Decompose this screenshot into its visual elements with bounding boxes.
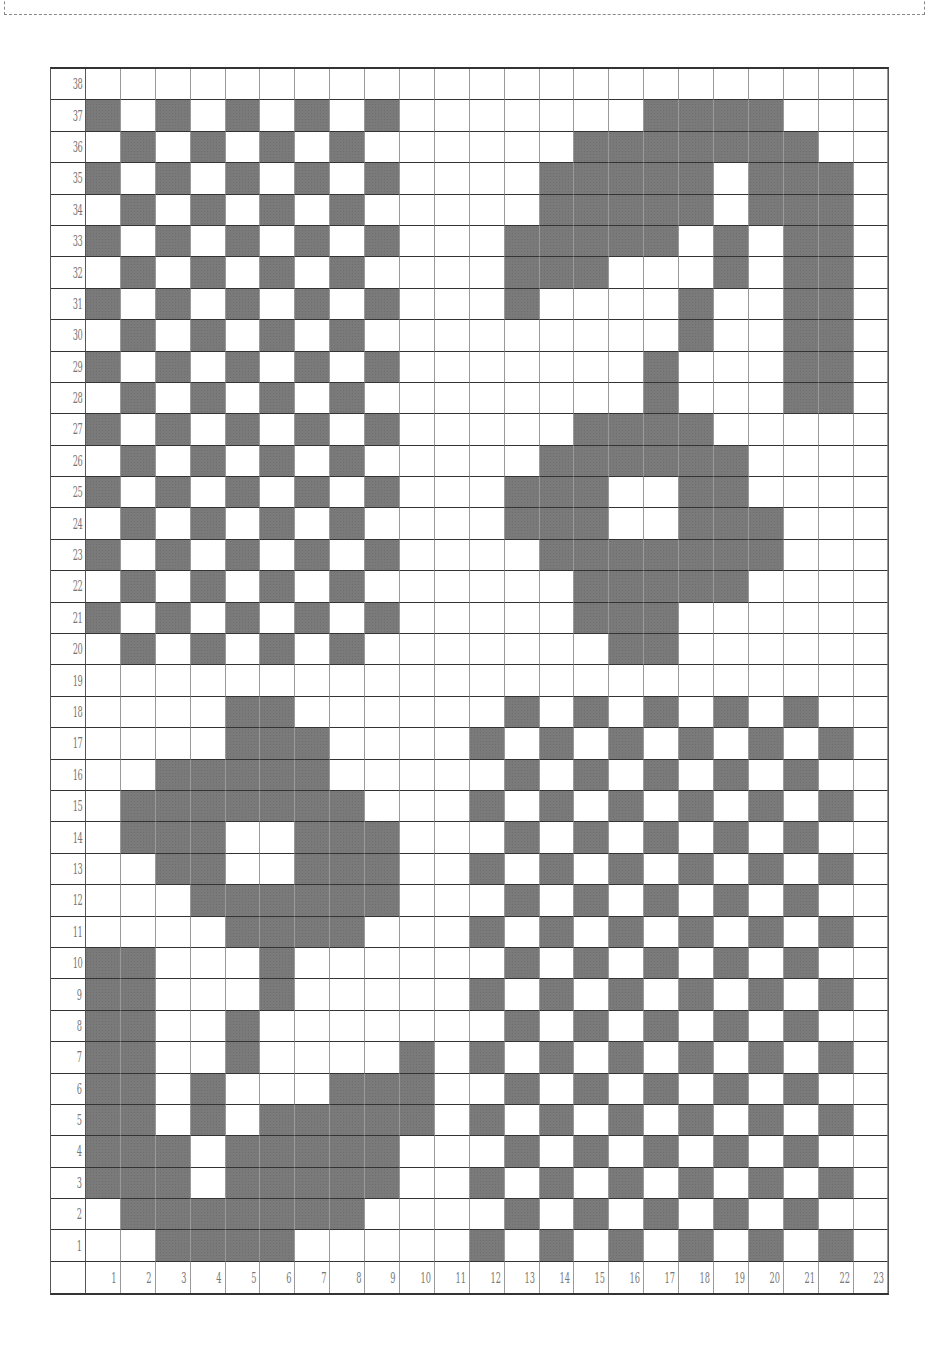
column-label-text: 2 [147, 1269, 152, 1287]
filled-cell [191, 1074, 226, 1105]
empty-cell [435, 760, 470, 791]
filled-cell [644, 226, 679, 257]
filled-cell [470, 1042, 505, 1073]
empty-cell [644, 791, 679, 822]
filled-cell [470, 917, 505, 948]
empty-cell [156, 1074, 191, 1105]
filled-cell [86, 603, 121, 634]
empty-cell [121, 728, 156, 759]
empty-cell [191, 665, 226, 696]
filled-cell [540, 728, 575, 759]
filled-cell [86, 163, 121, 194]
filled-cell [295, 163, 330, 194]
empty-cell [295, 383, 330, 414]
filled-cell [644, 571, 679, 602]
empty-cell [644, 1168, 679, 1199]
filled-cell [505, 257, 540, 288]
filled-cell [226, 603, 261, 634]
column-label: 6 [260, 1262, 295, 1293]
filled-cell [121, 948, 156, 979]
filled-cell [86, 1011, 121, 1042]
empty-cell [540, 100, 575, 131]
empty-cell [819, 132, 854, 163]
empty-cell [854, 477, 889, 508]
empty-cell [156, 1105, 191, 1136]
filled-cell [749, 508, 784, 539]
empty-cell [435, 791, 470, 822]
empty-cell [819, 697, 854, 728]
empty-cell [435, 540, 470, 571]
empty-cell [470, 226, 505, 257]
filled-cell [191, 1199, 226, 1230]
column-label: 11 [435, 1262, 470, 1293]
row-label-text: 24 [73, 515, 82, 533]
filled-cell [365, 540, 400, 571]
empty-cell [609, 383, 644, 414]
empty-cell [400, 383, 435, 414]
empty-cell [749, 603, 784, 634]
row-label-text: 20 [73, 640, 82, 658]
filled-cell [295, 917, 330, 948]
empty-cell [854, 822, 889, 853]
filled-cell [260, 320, 295, 351]
filled-cell [574, 446, 609, 477]
empty-cell [295, 979, 330, 1010]
filled-cell [156, 1199, 191, 1230]
empty-cell [819, 885, 854, 916]
filled-cell [784, 257, 819, 288]
filled-cell [226, 728, 261, 759]
filled-cell [121, 1168, 156, 1199]
empty-cell [400, 100, 435, 131]
filled-cell [819, 917, 854, 948]
empty-cell [819, 446, 854, 477]
column-label-text: 7 [321, 1269, 326, 1287]
empty-cell [574, 100, 609, 131]
empty-cell [854, 1199, 889, 1230]
filled-cell [295, 603, 330, 634]
empty-cell [854, 697, 889, 728]
empty-cell [819, 1199, 854, 1230]
row-label: 33 [51, 226, 86, 257]
empty-cell [435, 477, 470, 508]
empty-cell [505, 854, 540, 885]
filled-cell [156, 1230, 191, 1261]
empty-cell [86, 760, 121, 791]
empty-cell [679, 885, 714, 916]
filled-cell [679, 1168, 714, 1199]
row-label-text: 35 [73, 169, 82, 187]
filled-cell [609, 226, 644, 257]
filled-cell [505, 508, 540, 539]
empty-cell [505, 603, 540, 634]
empty-cell [679, 69, 714, 100]
filled-cell [86, 540, 121, 571]
empty-cell [365, 508, 400, 539]
empty-cell [470, 1136, 505, 1167]
filled-cell [609, 634, 644, 665]
empty-cell [854, 540, 889, 571]
row-label-text: 17 [73, 734, 82, 752]
empty-cell [609, 1136, 644, 1167]
filled-cell [505, 885, 540, 916]
empty-cell [400, 728, 435, 759]
row-label: 18 [51, 697, 86, 728]
empty-cell [749, 1011, 784, 1042]
empty-cell [365, 1011, 400, 1042]
row-label-text: 36 [73, 138, 82, 156]
empty-cell [609, 352, 644, 383]
row-label-text: 18 [73, 703, 82, 721]
filled-cell [121, 1074, 156, 1105]
filled-cell [505, 760, 540, 791]
filled-cell [819, 979, 854, 1010]
filled-cell [295, 728, 330, 759]
empty-cell [574, 320, 609, 351]
empty-cell [365, 257, 400, 288]
filled-cell [609, 728, 644, 759]
empty-cell [574, 854, 609, 885]
filled-cell [226, 477, 261, 508]
row-label-text: 5 [77, 1111, 82, 1129]
empty-cell [86, 665, 121, 696]
filled-cell [784, 226, 819, 257]
empty-cell [156, 1042, 191, 1073]
empty-cell [470, 132, 505, 163]
filled-cell [226, 917, 261, 948]
